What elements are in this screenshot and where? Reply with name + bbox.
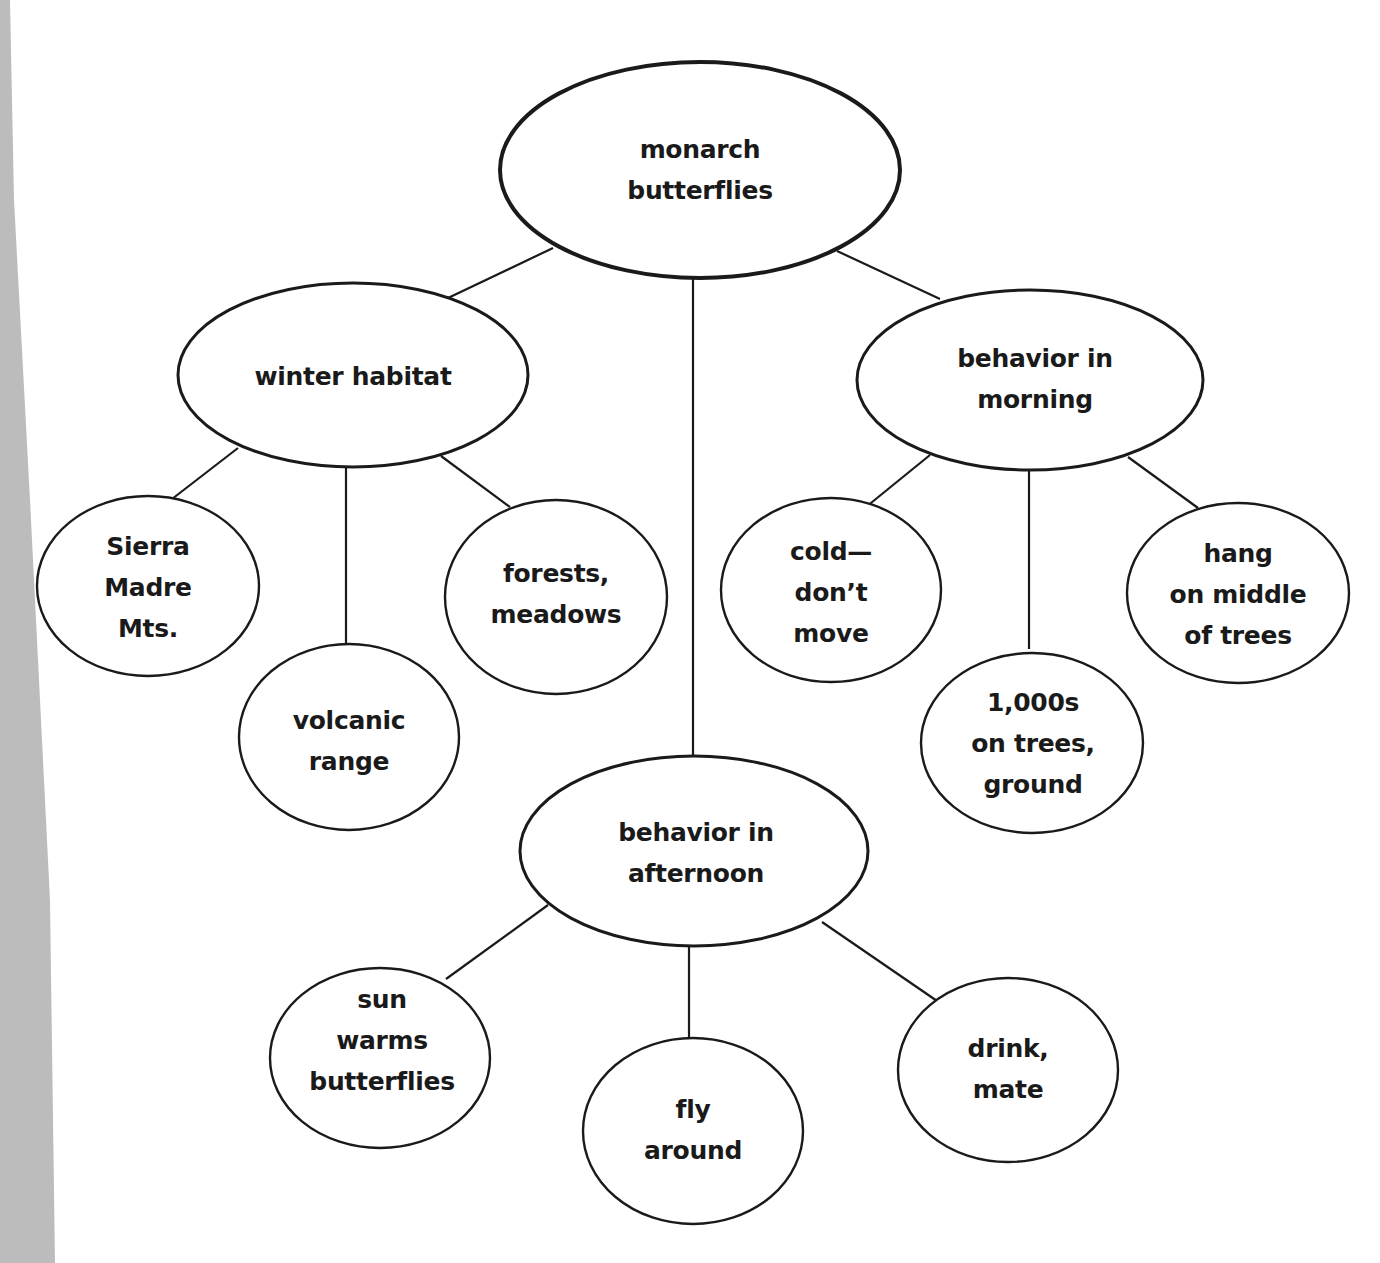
node-winter-habitat-shape xyxy=(178,283,528,467)
node-root-shape xyxy=(500,62,900,278)
edge-root-behavior-morning xyxy=(837,251,940,299)
node-cold-shape xyxy=(721,498,941,682)
edge-winter-forests xyxy=(441,456,510,507)
node-forests-meadows-shape xyxy=(445,500,667,694)
edge-afternoon-sun xyxy=(446,905,548,979)
node-drink-mate-shape xyxy=(898,978,1118,1162)
edge-morning-hang xyxy=(1128,457,1198,508)
node-fly-around-shape xyxy=(583,1038,803,1224)
node-thousands-shape xyxy=(921,653,1143,833)
node-behavior-afternoon-shape xyxy=(520,756,868,946)
edge-afternoon-drink xyxy=(822,922,940,1003)
edge-winter-sierra xyxy=(172,448,238,499)
edge-morning-cold xyxy=(866,455,930,507)
node-sun-warms-shape xyxy=(270,968,490,1148)
node-sierra-madre-shape xyxy=(37,496,259,676)
node-behavior-morning-shape xyxy=(857,290,1203,470)
concept-web-diagram xyxy=(0,0,1380,1263)
edge-root-winter-habitat xyxy=(448,248,553,298)
node-volcanic-range-shape xyxy=(239,644,459,830)
node-hang-shape xyxy=(1127,503,1349,683)
